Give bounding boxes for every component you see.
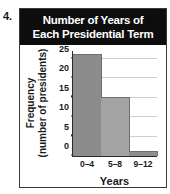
plot-inner: 0510152025 0–45–89–12 xyxy=(72,51,157,157)
y-tick-label: 0 xyxy=(64,141,69,151)
y-tick-label: 20 xyxy=(59,63,69,73)
plot-area: 0510152025 0–45–89–12 xyxy=(72,51,157,157)
y-tick-label: 5 xyxy=(64,122,69,132)
worksheet-problem: 4. Number of Years of Each Presidential … xyxy=(0,0,170,194)
problem-number: 4. xyxy=(3,10,12,22)
chart-figure: Number of Years of Each Presidential Ter… xyxy=(19,8,167,188)
chart-title-line-1: Number of Years of xyxy=(43,13,144,28)
y-axis-label-line-2: (number of presidents) xyxy=(37,49,49,158)
chart-body: Frequency (number of presidents) 0510152… xyxy=(20,45,166,187)
x-tick-label: 9–12 xyxy=(134,159,153,169)
x-tick-label: 5–8 xyxy=(108,159,122,169)
y-tick-label: 15 xyxy=(59,83,69,93)
x-axis-label: Years xyxy=(72,175,157,187)
chart-title-line-2: Each Presidential Term xyxy=(33,27,154,42)
bar xyxy=(101,97,130,156)
chart-title-banner: Number of Years of Each Presidential Ter… xyxy=(20,9,166,45)
y-axis-label-line-1: Frequency xyxy=(25,49,37,158)
y-axis-label: Frequency (number of presidents) xyxy=(24,45,50,161)
bar xyxy=(129,151,158,156)
x-tick-label: 0–4 xyxy=(80,159,94,169)
bar xyxy=(73,54,102,156)
y-tick-label: 10 xyxy=(59,102,69,112)
y-tick-label: 25 xyxy=(59,44,69,54)
